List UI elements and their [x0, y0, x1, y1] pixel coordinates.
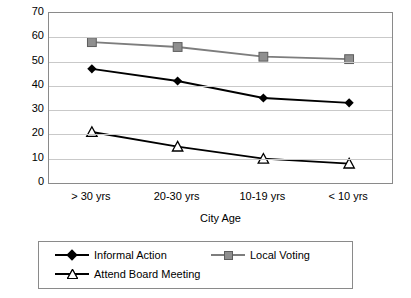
y-tick-label: 30	[4, 103, 44, 114]
gridline	[49, 110, 392, 111]
x-tick-label: > 30 yrs	[71, 190, 110, 202]
data-point-marker	[345, 98, 354, 107]
data-point-marker	[259, 93, 268, 102]
legend-swatch-diamond-icon	[55, 249, 89, 261]
legend-swatch-triangle-open-icon	[55, 268, 89, 280]
x-axis-title: City Age	[48, 212, 393, 225]
legend-item: Attend Board Meeting	[55, 268, 200, 280]
data-point-marker	[87, 38, 96, 47]
legend-swatch-square-icon	[211, 249, 245, 261]
y-tick-label: 70	[4, 6, 44, 17]
legend-label: Informal Action	[94, 249, 167, 261]
data-point-marker	[87, 64, 96, 73]
series-layer	[49, 13, 392, 183]
y-tick-label: 60	[4, 30, 44, 41]
chart-figure: 010203040506070 > 30 yrs20-30 yrs10-19 y…	[0, 0, 411, 298]
legend-label: Attend Board Meeting	[94, 268, 200, 280]
x-tick-label: 20-30 yrs	[154, 190, 200, 202]
gridline	[49, 86, 392, 87]
gridline	[49, 134, 392, 135]
legend-item: Local Voting	[211, 249, 310, 261]
x-axis-tick-labels: > 30 yrs20-30 yrs10-19 yrs< 10 yrs	[48, 190, 393, 206]
x-tick-label: < 10 yrs	[328, 190, 367, 202]
y-axis-tick-labels: 010203040506070	[0, 12, 44, 184]
data-point-marker	[259, 52, 268, 61]
series-line	[92, 42, 349, 59]
data-point-marker	[173, 76, 182, 85]
y-tick-label: 50	[4, 55, 44, 66]
legend-item: Informal Action	[55, 249, 167, 261]
chart-legend: Informal ActionLocal VotingAttend Board …	[38, 241, 353, 289]
gridline	[49, 62, 392, 63]
x-tick-label: 10-19 yrs	[239, 190, 285, 202]
legend-label: Local Voting	[250, 249, 310, 261]
data-point-marker	[173, 43, 182, 52]
y-tick-label: 10	[4, 152, 44, 163]
y-tick-label: 20	[4, 127, 44, 138]
y-tick-label: 0	[4, 176, 44, 187]
gridline	[49, 37, 392, 38]
y-tick-label: 40	[4, 79, 44, 90]
plot-area	[48, 12, 393, 184]
gridline	[49, 159, 392, 160]
